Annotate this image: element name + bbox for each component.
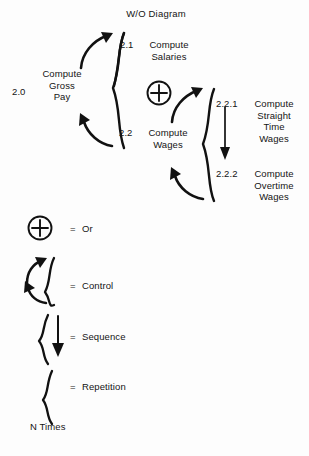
node-number-2-0: 2.0 bbox=[12, 86, 34, 98]
legend-label-or: Or bbox=[82, 223, 152, 235]
brace-group-2-2-1-2-2-2 bbox=[203, 89, 214, 201]
node-number-2-2-1: 2.2.1 bbox=[216, 98, 242, 110]
control-arc-upper-2-2 bbox=[172, 87, 203, 122]
legend-footnote: N Times bbox=[30, 421, 100, 433]
wo-diagram-canvas: W/O Diagram 2.0 Compute Gross Pay 2.1 Co… bbox=[0, 0, 309, 456]
legend-label-control: Control bbox=[82, 280, 152, 292]
node-label-2-2: Compute Wages bbox=[140, 127, 196, 150]
legend-repetition-icon bbox=[43, 371, 52, 424]
legend-or-circle-icon bbox=[29, 217, 52, 240]
node-label-2-1: Compute Salaries bbox=[141, 39, 197, 62]
or-symbol-main bbox=[148, 82, 171, 105]
node-label-2-0: Compute Gross Pay bbox=[33, 68, 91, 103]
node-number-2-2-2: 2.2.2 bbox=[216, 168, 242, 180]
page-title: W/O Diagram bbox=[108, 8, 204, 20]
control-arc-lower-2-0 bbox=[79, 113, 112, 146]
legend-equals-sequence: = bbox=[70, 331, 80, 343]
legend-label-repetition: Repetition bbox=[82, 381, 162, 393]
legend-equals-or: = bbox=[70, 223, 80, 235]
legend-equals-repetition: = bbox=[70, 381, 80, 393]
node-number-2-2: 2.2 bbox=[119, 127, 139, 139]
sequence-arrow-2-2-1-to-2-2-2 bbox=[220, 107, 230, 160]
node-number-2-1: 2.1 bbox=[120, 39, 140, 51]
node-label-2-2-1: Compute Straight Time Wages bbox=[246, 98, 302, 144]
control-arc-lower-2-2 bbox=[170, 167, 203, 199]
legend-sequence-icon bbox=[39, 315, 64, 364]
legend-control-icon bbox=[24, 257, 54, 306]
legend-label-sequence: Sequence bbox=[82, 331, 162, 343]
node-label-2-2-2: Compute Overtime Wages bbox=[246, 168, 302, 203]
legend-equals-control: = bbox=[70, 280, 80, 292]
control-arc-upper-2-0 bbox=[81, 32, 113, 68]
